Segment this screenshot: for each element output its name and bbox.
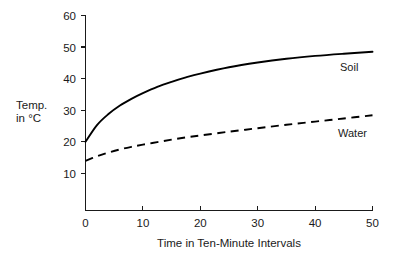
y-tick-label-30: 30 xyxy=(63,105,76,117)
y-tick-label-10: 10 xyxy=(63,168,76,180)
x-tick-label-40: 40 xyxy=(309,217,322,229)
water-temperature-curve xyxy=(86,115,373,160)
x-tick-label-20: 20 xyxy=(194,217,207,229)
y-axis-title-line-1: Temp. xyxy=(16,99,47,111)
x-tick-label-30: 30 xyxy=(251,217,264,229)
y-axis-ticks xyxy=(81,16,86,174)
x-axis-tick-labels: 0 10 20 30 40 50 xyxy=(82,217,379,229)
x-tick-label-10: 10 xyxy=(137,217,150,229)
x-axis-title: Time in Ten-Minute Intervals xyxy=(157,237,301,249)
y-axis-title-line-2: in °C xyxy=(16,112,41,124)
x-axis-ticks xyxy=(86,206,373,211)
chart-container: 60 50 40 30 20 10 0 10 20 30 40 50 Temp.… xyxy=(0,0,395,264)
soil-temperature-curve xyxy=(86,52,373,142)
y-tick-label-40: 40 xyxy=(63,73,76,85)
x-tick-label-0: 0 xyxy=(82,217,88,229)
y-tick-label-60: 60 xyxy=(63,10,76,22)
y-axis-title: Temp. in °C xyxy=(16,99,47,124)
y-axis-tick-labels: 60 50 40 30 20 10 xyxy=(63,10,76,180)
y-tick-label-50: 50 xyxy=(63,42,76,54)
x-tick-label-50: 50 xyxy=(366,217,379,229)
temperature-vs-time-line-chart: 60 50 40 30 20 10 0 10 20 30 40 50 Temp.… xyxy=(0,0,395,264)
y-tick-label-20: 20 xyxy=(63,136,76,148)
water-series-label: Water xyxy=(338,127,367,139)
soil-series-label: Soil xyxy=(340,61,358,73)
